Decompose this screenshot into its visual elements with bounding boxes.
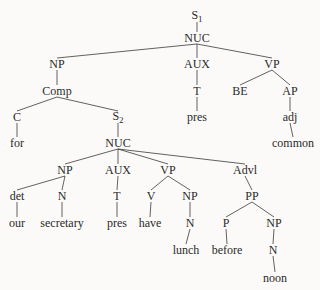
node-label: C xyxy=(13,110,21,124)
node-label: have xyxy=(139,216,162,230)
node-label: PP xyxy=(245,189,258,203)
node-label: VP xyxy=(264,57,279,71)
tree-node-np1: NP xyxy=(49,58,64,70)
tree-node-secretary: secretary xyxy=(40,217,83,229)
tree-node-for: for xyxy=(10,137,24,149)
tree-edge xyxy=(17,176,65,190)
tree-node-c: C xyxy=(13,111,21,123)
node-label: S xyxy=(191,8,198,22)
tree-node-our: our xyxy=(9,217,25,229)
tree-edge xyxy=(290,123,293,137)
node-label: N xyxy=(269,243,278,257)
tree-node-ap: AP xyxy=(282,85,297,97)
syntax-tree-diagram: S1NUCNPAUXVPCompTBEAPCS2presadjforNUCcom… xyxy=(0,0,320,290)
node-label: NP xyxy=(182,189,197,203)
node-label: before xyxy=(212,243,243,257)
tree-edge xyxy=(273,229,274,244)
node-label: lunch xyxy=(173,243,200,257)
tree-edge xyxy=(168,176,190,190)
node-label: VP xyxy=(160,163,175,177)
tree-node-aux1: AUX xyxy=(184,58,210,70)
node-label: common xyxy=(272,136,314,150)
tree-node-n3: N xyxy=(269,244,278,256)
tree-node-np3: NP xyxy=(182,190,197,202)
tree-edge xyxy=(245,176,252,190)
tree-edge xyxy=(151,176,168,190)
tree-edge xyxy=(118,149,245,164)
tree-node-lunch: lunch xyxy=(173,244,200,256)
node-label: T xyxy=(193,84,200,98)
tree-node-t2: T xyxy=(113,190,120,202)
tree-edge xyxy=(117,176,118,190)
node-label: N xyxy=(186,216,195,230)
node-label: our xyxy=(9,216,25,230)
tree-node-adj: adj xyxy=(283,111,298,123)
node-label: N xyxy=(58,189,67,203)
tree-edge xyxy=(57,97,118,111)
node-label: det xyxy=(10,189,25,203)
node-label: T xyxy=(113,189,120,203)
tree-node-common: common xyxy=(272,137,314,149)
node-label: NP xyxy=(57,163,72,177)
tree-node-s1: S1 xyxy=(191,9,202,24)
tree-node-nuc1: NUC xyxy=(184,32,209,44)
tree-edge xyxy=(186,229,190,244)
node-subscript: 1 xyxy=(198,14,203,24)
tree-node-n2: N xyxy=(186,217,195,229)
tree-node-pres1: pres xyxy=(187,111,207,123)
tree-node-have: have xyxy=(139,217,162,229)
tree-node-before: before xyxy=(212,244,243,256)
tree-edge xyxy=(273,256,275,272)
tree-edge xyxy=(240,70,272,85)
node-label: for xyxy=(10,136,24,150)
node-label: adj xyxy=(283,110,298,124)
tree-node-pres2: pres xyxy=(107,217,127,229)
node-label: Advl xyxy=(233,163,257,177)
node-subscript: 2 xyxy=(119,115,124,125)
node-label: AP xyxy=(282,84,297,98)
node-label: NUC xyxy=(105,136,130,150)
tree-edge xyxy=(197,44,272,58)
tree-edge xyxy=(17,97,57,111)
node-label: NUC xyxy=(184,31,209,45)
tree-node-advl: Advl xyxy=(233,164,257,176)
tree-edge xyxy=(57,44,197,58)
node-label: pres xyxy=(107,216,127,230)
node-label: pres xyxy=(187,110,207,124)
node-label: AUX xyxy=(105,163,131,177)
tree-edge xyxy=(252,202,274,217)
node-label: AUX xyxy=(184,57,210,71)
tree-node-noon: noon xyxy=(263,272,287,284)
tree-node-np2: NP xyxy=(57,164,72,176)
tree-edge xyxy=(226,229,227,244)
node-label: S xyxy=(112,109,119,123)
node-label: noon xyxy=(263,271,287,285)
tree-node-pp: PP xyxy=(245,190,258,202)
tree-node-v: V xyxy=(147,190,156,202)
tree-node-p: P xyxy=(223,217,230,229)
tree-node-s2: S2 xyxy=(112,110,123,125)
tree-edge xyxy=(118,149,168,164)
tree-node-nuc2: NUC xyxy=(105,137,130,149)
tree-edge xyxy=(272,70,290,85)
tree-edge xyxy=(150,202,151,217)
node-label: V xyxy=(147,189,156,203)
node-label: Comp xyxy=(42,84,71,98)
node-label: NP xyxy=(49,57,64,71)
tree-edge xyxy=(226,202,252,217)
node-label: BE xyxy=(232,84,247,98)
tree-edge xyxy=(65,149,118,164)
tree-node-comp: Comp xyxy=(42,85,71,97)
node-label: secretary xyxy=(40,216,83,230)
tree-node-be: BE xyxy=(232,85,247,97)
tree-node-vp1: VP xyxy=(264,58,279,70)
tree-node-t1: T xyxy=(193,85,200,97)
tree-node-det: det xyxy=(10,190,25,202)
tree-node-aux2: AUX xyxy=(105,164,131,176)
tree-node-vp2: VP xyxy=(160,164,175,176)
tree-node-np4: NP xyxy=(266,217,281,229)
node-label: NP xyxy=(266,216,281,230)
tree-node-n1: N xyxy=(58,190,67,202)
node-label: P xyxy=(223,216,230,230)
tree-edge xyxy=(62,176,65,190)
